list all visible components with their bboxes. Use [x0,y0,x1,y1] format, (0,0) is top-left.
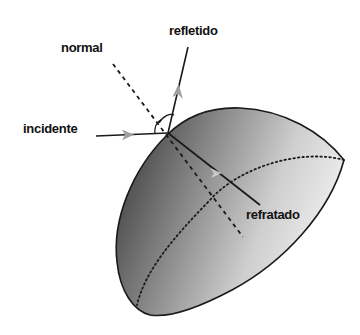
diagram-canvas [0,0,360,335]
label-incident: incidente [23,122,77,135]
label-refracted: refratado [246,208,300,221]
refraction-diagram: normal refletido incidente refratado [0,0,360,335]
label-normal: normal [61,41,103,54]
reflected-arrow-icon [173,84,184,99]
lens-body [116,108,344,316]
label-reflected: refletido [169,24,218,37]
